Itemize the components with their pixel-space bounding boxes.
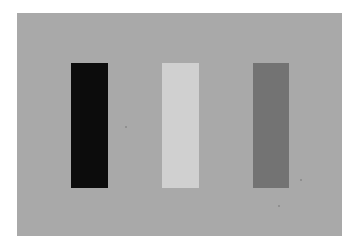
medium-gray-bar xyxy=(253,63,289,188)
speck xyxy=(300,179,302,181)
gray-panel xyxy=(17,13,342,236)
speck xyxy=(278,205,280,207)
black-bar xyxy=(71,63,108,188)
light-gray-bar xyxy=(162,63,199,188)
speck xyxy=(125,126,127,128)
